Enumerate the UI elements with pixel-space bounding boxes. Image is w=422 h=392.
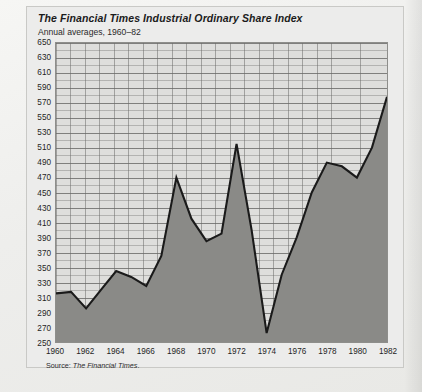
y-tick-label: 370 [23,248,51,257]
y-tick-label: 290 [23,308,51,317]
figure-container: The Financial Times Industrial Ordinary … [0,0,422,392]
y-tick-label: 530 [23,128,51,137]
source-prefix: Source: [46,361,73,370]
y-tick-label: 630 [23,53,51,62]
x-tick-label: 1982 [379,347,397,356]
x-tick-label: 1968 [167,347,185,356]
y-tick-label: 610 [23,68,51,77]
y-tick-label: 570 [23,98,51,107]
x-tick-label: 1972 [228,347,246,356]
source-suffix: . [137,361,139,370]
y-tick-label: 450 [23,188,51,197]
y-tick-label: 270 [23,323,51,332]
x-tick-label: 1974 [258,347,276,356]
source-note: Source: The Financial Times. [46,361,139,370]
y-tick-label: 410 [23,218,51,227]
series-area-chart [56,43,387,342]
y-tick-label: 490 [23,158,51,167]
y-tick-label: 650 [23,38,51,47]
y-axis-tick-labels: 6506306105905705505305104904704504304103… [22,42,51,343]
plot-area [55,42,388,343]
y-tick-label: 590 [23,83,51,92]
x-tick-label: 1964 [106,347,124,356]
x-tick-label: 1962 [76,347,94,356]
y-tick-label: 470 [23,173,51,182]
y-tick-label: 510 [23,143,51,152]
x-tick-label: 1966 [137,347,155,356]
y-tick-label: 390 [23,233,51,242]
series-area-fill [56,97,387,342]
y-tick-label: 430 [23,203,51,212]
y-tick-label: 330 [23,278,51,287]
source-publication: The Financial Times [73,361,138,370]
page-edge-shadow [404,0,422,392]
chart-subtitle: Annual averages, 1960–82 [38,27,141,37]
x-tick-label: 1976 [288,347,306,356]
y-tick-label: 310 [23,293,51,302]
x-tick-label: 1980 [349,347,367,356]
y-tick-label: 550 [23,113,51,122]
x-tick-label: 1960 [46,347,64,356]
x-tick-label: 1978 [318,347,336,356]
chart-title: The Financial Times Industrial Ordinary … [38,12,303,24]
x-axis-tick-labels: 1960196219641966196819701972197419761978… [55,347,388,359]
y-tick-label: 350 [23,263,51,272]
x-tick-label: 1970 [197,347,215,356]
